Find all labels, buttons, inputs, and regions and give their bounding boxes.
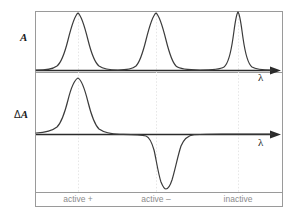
absorbance-axis-label: A [20, 31, 27, 43]
delta-symbol: Δ [14, 109, 21, 120]
spectral-diagram-figure: A ΔA λ λ active + active – inactive [0, 0, 299, 219]
category-label-active-minus: active – [120, 194, 192, 204]
plot-frame [36, 12, 283, 207]
guide-lines [79, 12, 239, 192]
delta-absorbance-curve [36, 78, 272, 189]
delta-absorbance-panel [36, 78, 281, 189]
absorbance-panel [36, 12, 281, 74]
delta-absorbance-x-axis-label: λ [258, 136, 263, 148]
absorbance-curve [36, 12, 272, 70]
diagram-canvas [0, 0, 299, 219]
absorbance-axis-label-text: A [20, 31, 27, 43]
category-label-active-plus: active + [42, 194, 114, 204]
absorbance-x-axis-label: λ [258, 71, 263, 83]
category-label-inactive: inactive [202, 194, 274, 204]
delta-absorbance-axis-label-text: A [21, 108, 28, 120]
delta-absorbance-axis-label: ΔA [14, 108, 28, 120]
